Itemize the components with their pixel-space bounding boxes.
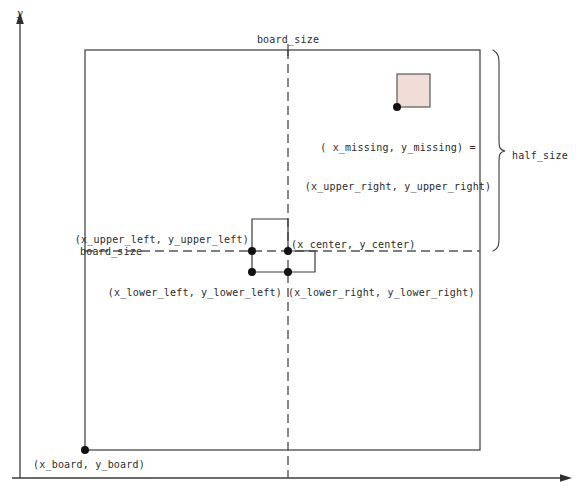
board-origin-label: (x_board, y_board) [33,458,145,471]
lower-right-dot [284,268,292,276]
lower-left-dot [248,268,256,276]
center-label: (x_center, y_center) [291,238,415,251]
board-rectangle [85,50,480,450]
half-size-label: half_size [512,149,568,162]
board-size-top-label: board_size [257,33,319,46]
y-axis-label: y [17,6,23,19]
diagram-canvas: y board_size board_size half_size (x_boa… [0,0,582,499]
missing-tile [397,74,430,107]
upper-left-dot [248,247,256,255]
missing-tile-label-line2: (x_upper_right, y_upper_right) [305,180,492,193]
missing-tile-label: ( x_missing, y_missing) = (x_upper_right… [305,115,492,219]
board-origin-dot [81,446,89,454]
missing-tile-dot [393,103,401,111]
lower-right-label: (x_lower_right, y_lower_right) [288,286,475,299]
board-size-left-label: board_size [80,245,142,258]
y-axis [16,12,24,478]
lower-left-label: (x_lower_left, y_lower_left) [108,286,282,299]
x-axis [12,474,572,482]
missing-tile-label-line1: ( x_missing, y_missing) = [305,141,492,154]
half-size-brace [493,50,505,251]
upper-left-label: (x_upper_left, y_upper_left) [75,233,249,246]
